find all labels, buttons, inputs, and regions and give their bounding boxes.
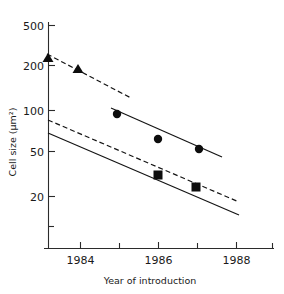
y-tick-label-500: 500: [23, 20, 44, 33]
chart-figure: 500 200 100 50 20 1984 1986 1988 Cell si…: [0, 0, 284, 294]
data-point-circle-1: [113, 110, 121, 118]
data-point-circle-2: [154, 135, 162, 143]
y-tick-label-20: 20: [30, 191, 44, 204]
data-point-triangle-2: [73, 64, 84, 73]
data-point-circle-3: [195, 145, 203, 153]
x-axis-title: Year of introduction: [103, 275, 197, 286]
data-point-square-1: [154, 171, 163, 180]
x-axis: [44, 242, 274, 249]
data-point-triangle-1: [43, 53, 54, 62]
circle-fit-line: [111, 108, 222, 157]
x-tick-label-1988: 1988: [223, 254, 251, 267]
y-tick-label-100: 100: [23, 105, 44, 118]
square-fit-line: [48, 120, 239, 202]
series-squares: [48, 120, 239, 202]
series-circles: [111, 108, 222, 157]
triangle-fit-line: [47, 54, 131, 98]
y-tick-label-50: 50: [30, 146, 44, 159]
lower-trend-line: [48, 133, 239, 215]
y-tick-label-200: 200: [23, 60, 44, 73]
x-tick-label-1986: 1986: [145, 254, 173, 267]
y-axis-title: Cell size (µm²): [7, 108, 18, 177]
x-tick-label-1984: 1984: [67, 254, 95, 267]
series-triangles: [43, 53, 132, 98]
scatter-plot-canvas: 500 200 100 50 20 1984 1986 1988 Cell si…: [0, 0, 284, 294]
series-lower-trend: [48, 133, 239, 215]
data-point-square-2: [192, 183, 201, 192]
